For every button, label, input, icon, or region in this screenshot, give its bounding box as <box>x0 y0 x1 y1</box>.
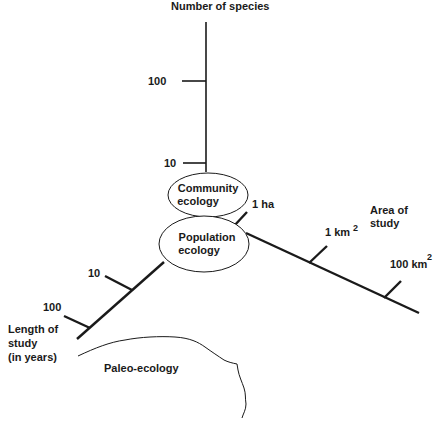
area-tick-1km2 <box>309 246 327 263</box>
paleo-ecology-region: Paleo-ecology <box>78 337 246 418</box>
species-axis-title: Number of species <box>171 0 269 12</box>
area-tick-label-1km: 1 km <box>325 226 350 238</box>
population-label-line1: Population <box>179 231 236 243</box>
length-axis-title-line1: Length of <box>8 323 58 335</box>
ecology-scale-diagram: Number of species 100 10 1 ha 1 km 2 100… <box>0 0 436 428</box>
length-tick-10 <box>105 276 132 290</box>
length-tick-100 <box>64 316 90 328</box>
area-axis-title-line1: Area of <box>370 204 408 216</box>
area-tick-sup-100km: 2 <box>427 252 432 262</box>
community-label-line2: ecology <box>177 195 219 207</box>
species-tick-label-10: 10 <box>164 157 176 169</box>
species-axis: Number of species 100 10 <box>148 0 269 172</box>
population-label-line2: ecology <box>178 244 220 256</box>
length-axis-title-line3: (in years) <box>8 351 57 363</box>
population-ecology-region: Population ecology <box>159 216 249 272</box>
community-ecology-region: Community ecology <box>168 173 248 217</box>
area-tick-label-100km: 100 km <box>390 258 428 270</box>
area-axis-title-line2: study <box>370 217 400 229</box>
area-tick-label-1ha: 1 ha <box>252 198 275 210</box>
length-axis-title-line2: study <box>8 337 38 349</box>
area-tick-sup-1km: 2 <box>353 223 358 233</box>
area-tick-100km2 <box>384 281 401 298</box>
length-axis: 10 100 Length of study (in years) <box>8 262 164 363</box>
area-axis: 1 ha 1 km 2 100 km 2 Area of study <box>234 198 432 313</box>
species-tick-label-100: 100 <box>148 75 166 87</box>
paleo-label: Paleo-ecology <box>104 362 179 374</box>
community-label-line1: Community <box>178 182 239 194</box>
length-tick-label-10: 10 <box>88 267 100 279</box>
length-tick-label-100: 100 <box>43 301 61 313</box>
